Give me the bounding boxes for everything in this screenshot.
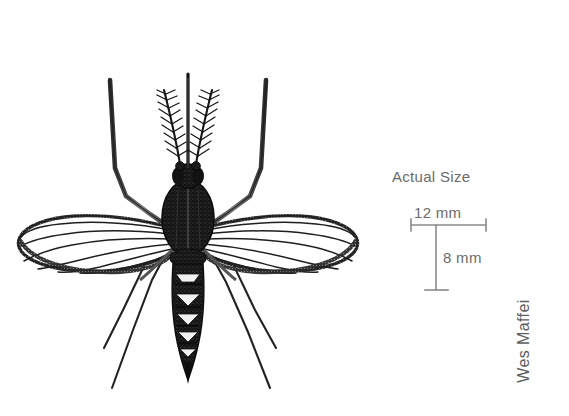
antenna-left (157, 90, 188, 164)
abdomen (172, 264, 203, 384)
scale-panel: Actual Size 12 mm 8 mm (386, 168, 506, 303)
wing-right (199, 216, 357, 274)
thorax (162, 180, 214, 256)
artist-credit: Wes Maffei (512, 276, 536, 406)
wing-left (18, 216, 176, 274)
mosquito-body-group (18, 74, 357, 388)
mosquito-illustration (0, 18, 380, 408)
scale-rule (386, 168, 506, 303)
illustration-page: Actual Size 12 mm 8 mm Wes Maffei (0, 0, 569, 416)
artist-credit-text: Wes Maffei (515, 299, 533, 382)
mosquito-drawing (0, 18, 380, 408)
antenna-right (188, 90, 219, 164)
